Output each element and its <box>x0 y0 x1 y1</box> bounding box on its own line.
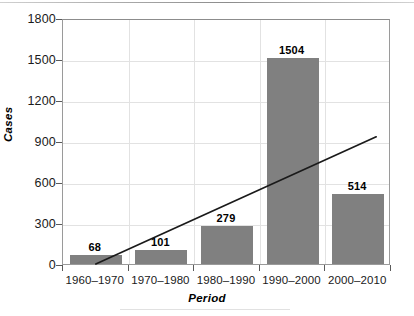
x-tick-label: 2000–2010 <box>324 275 390 287</box>
y-tick-label: 1500 <box>10 54 56 67</box>
scan-artifact-top <box>0 2 414 3</box>
x-tick-label: 1980–1990 <box>193 275 259 287</box>
x-tick-label: 1960–1970 <box>62 275 128 287</box>
y-tick-label: 1800 <box>10 13 56 26</box>
y-tick-label: 1200 <box>10 95 56 108</box>
x-tick-mark <box>324 265 325 271</box>
trend-line <box>63 20 391 266</box>
y-tick-label: 900 <box>10 136 56 149</box>
x-tick-mark <box>390 265 391 271</box>
x-tick-label: 1970–1980 <box>128 275 194 287</box>
bar-value-label: 514 <box>327 181 387 192</box>
chart-figure: Cases 0300600900120015001800 68101279150… <box>0 0 414 316</box>
scan-artifact-bottom <box>120 309 290 310</box>
plot-area <box>62 19 390 265</box>
y-tick-label: 600 <box>10 177 56 190</box>
bar-value-label: 1504 <box>262 45 322 56</box>
x-tick-mark <box>193 265 194 271</box>
y-tick-label: 0 <box>10 259 56 272</box>
bar-value-label: 279 <box>196 213 256 224</box>
y-tick-label: 300 <box>10 218 56 231</box>
x-axis-title: Period <box>0 292 414 304</box>
x-tick-mark <box>128 265 129 271</box>
x-tick-label: 1990–2000 <box>259 275 325 287</box>
x-tick-mark <box>62 265 63 271</box>
bar-value-label: 101 <box>130 237 190 248</box>
x-tick-mark <box>259 265 260 271</box>
bar-value-label: 68 <box>65 242 125 253</box>
